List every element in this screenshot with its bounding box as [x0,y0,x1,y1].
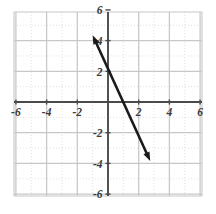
y-tick-label: 2 [96,66,103,78]
x-tick-label: 6 [197,106,203,118]
x-tick-label: 2 [135,106,142,118]
x-tick-label: -6 [11,106,21,118]
y-tick-label: -6 [93,188,103,200]
y-tick-label: 6 [97,4,103,16]
x-tick-label: -4 [42,106,52,118]
y-tick-label: -2 [93,127,103,139]
y-tick-label: -4 [93,158,103,170]
coordinate-plane-figure: -6-4-2246 642-2-4-6 [0,0,216,214]
graph-canvas: -6-4-2246 642-2-4-6 [0,0,216,214]
x-tick-label: -2 [73,106,83,118]
x-tick-label: 4 [166,106,173,118]
